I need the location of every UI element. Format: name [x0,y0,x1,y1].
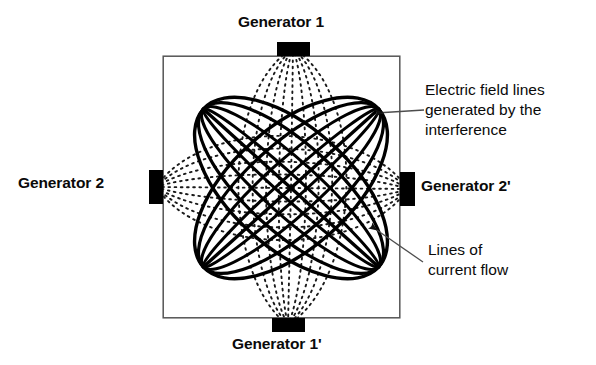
field-lines-annotation-line-1: Electric field lines [425,80,545,100]
generator-2-label: Generator 2 [18,175,104,191]
current-lines-annotation-line-1: Lines of [428,240,508,260]
field-lines-annotation: Electric field lines generated by the in… [425,80,545,139]
current-lines-annotation: Lines of current flow [428,240,508,280]
current-lines-annotation-line-2: current flow [428,260,508,280]
generator-2-electrode[interactable] [149,170,163,204]
field-lines-annotation-line-2: generated by the [425,100,545,120]
generator-1-prime-label: Generator 1' [232,336,322,352]
generator-1-electrode[interactable] [277,42,310,56]
generator-2-prime-electrode[interactable] [400,172,415,206]
generator-2-prime-label: Generator 2' [421,178,511,194]
diagram-canvas: Generator 1 Generator 1' Generator 2 Gen… [0,0,596,365]
field-lines-annotation-line-3: interference [425,120,545,140]
generator-1-prime-electrode[interactable] [272,318,305,332]
generator-1-label: Generator 1 [238,14,324,30]
